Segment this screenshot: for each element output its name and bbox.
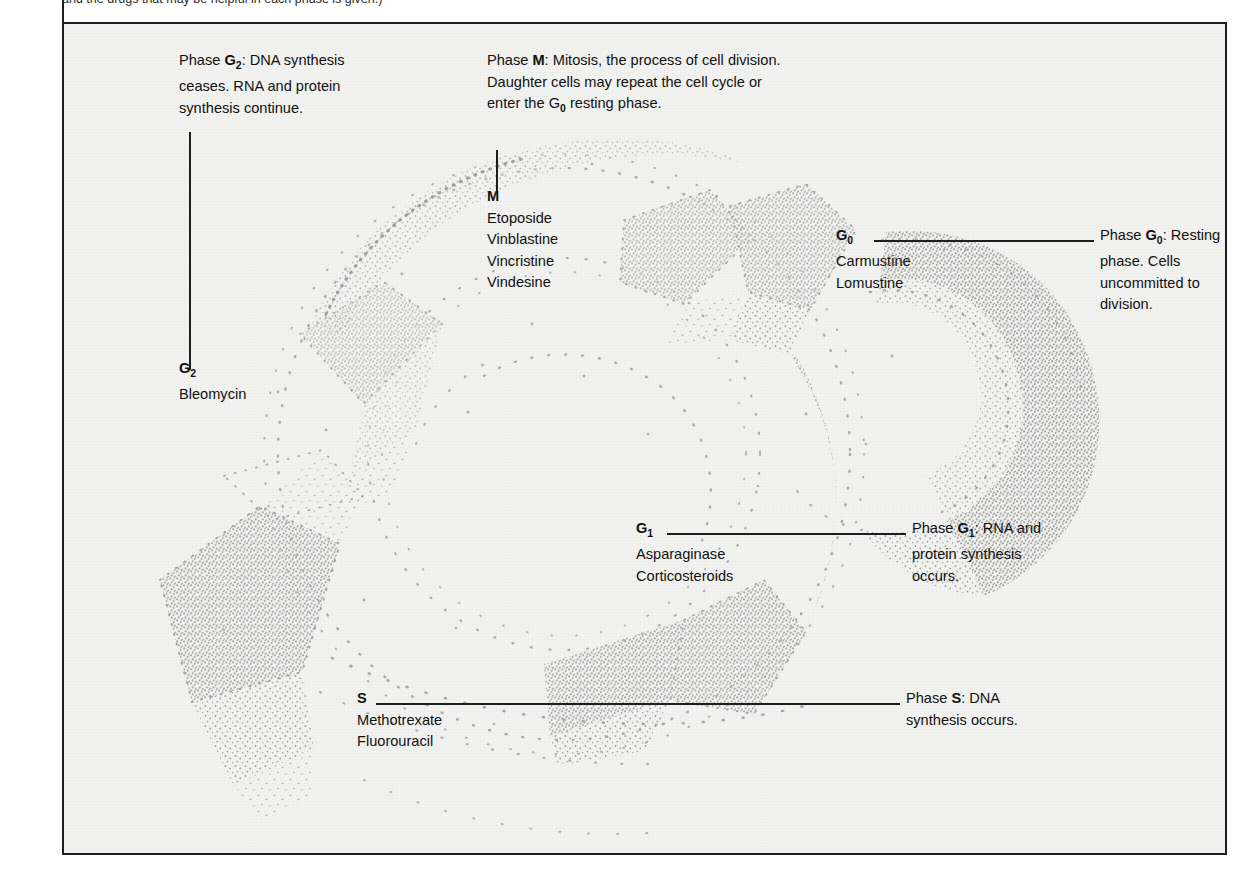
note-g1-key: G [957,520,968,536]
leader-line-s [376,703,900,705]
label-g0-key: G [836,227,847,243]
label-g2-key: G [179,360,190,376]
label-g2: G2 Bleomycin [179,358,246,406]
note-g0-prefix: Phase [1100,227,1145,243]
note-g1: Phase G1: RNA and protein synthesis occu… [912,518,1052,587]
figure-caption-strip: and the drugs that may be helpful in eac… [62,0,1228,7]
label-g2-sub: 2 [190,367,196,379]
drug-m-0: Etoposide [487,208,558,230]
label-g0-sub: 0 [847,234,853,246]
label-g1-sub: 1 [647,527,653,539]
label-s-key: S [357,690,367,706]
label-s: S Methotrexate Fluorouracil [357,688,442,753]
leader-line-g2 [189,132,191,370]
drug-s-1: Fluorouracil [357,731,442,753]
note-s-prefix: Phase [906,690,951,706]
drug-g2-0: Bleomycin [179,384,246,406]
note-g2: Phase G2: DNA synthesis ceases. RNA and … [179,50,384,119]
note-m-body2: resting phase. [566,95,662,111]
figure-caption-text: and the drugs that may be helpful in eac… [62,0,1228,7]
drug-g1-0: Asparaginase [636,544,733,566]
drug-m-2: Vincristine [487,251,558,273]
label-g1: G1 Asparaginase Corticosteroids [636,518,733,587]
note-s-key: S [951,690,961,706]
label-g1-key: G [636,520,647,536]
drug-m-3: Vindesine [487,272,558,294]
note-s: Phase S: DNA synthesis occurs. [906,688,1056,731]
label-g0: G0 Carmustine Lomustine [836,225,911,294]
segment-m [620,184,856,354]
note-m-key: M [532,52,544,68]
drug-g1-1: Corticosteroids [636,566,733,588]
drug-g0-0: Carmustine [836,251,911,273]
label-m: M Etoposide Vinblastine Vincristine Vind… [487,186,558,294]
note-g0-key: G [1145,227,1156,243]
note-g2-key: G [224,52,235,68]
segment-s [160,450,364,820]
note-m: Phase M: Mitosis, the process of cell di… [487,50,787,119]
label-m-key: M [487,188,499,204]
note-g1-prefix: Phase [912,520,957,536]
note-g0: Phase G0: Resting phase. Cells uncommitt… [1100,225,1232,316]
segment-g1 [544,580,806,766]
drug-g0-1: Lomustine [836,273,911,295]
note-m-prefix: Phase [487,52,532,68]
drug-m-1: Vinblastine [487,229,558,251]
note-g2-prefix: Phase [179,52,224,68]
drug-s-0: Methotrexate [357,710,442,732]
